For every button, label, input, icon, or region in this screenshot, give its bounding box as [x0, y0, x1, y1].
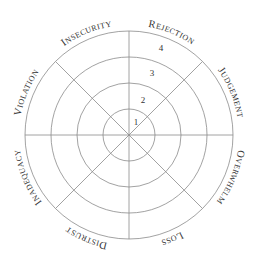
emotion-wheel-diagram: 1234 REJECTIONJUDGEMENTOVERWHELMLOSSDIST… [0, 0, 256, 268]
segment-label-loss: LOSS [159, 230, 185, 250]
segment-label-judgement: JUDGEMENT [215, 64, 247, 120]
spoke-135 [129, 135, 203, 209]
ring-number-2: 2 [141, 95, 146, 105]
ring-number-3: 3 [150, 68, 155, 78]
segment-label-violation: VIOLATION [10, 66, 41, 118]
segment-label-overwhelm: OVERWHELM [214, 147, 249, 207]
spoke-315 [56, 62, 130, 136]
spokes [25, 31, 233, 239]
ring-number-1: 1 [134, 117, 139, 127]
spoke-225 [56, 135, 130, 209]
ring-numbers: 1234 [134, 43, 164, 127]
segment-label-rejection: REJECTION [146, 17, 197, 48]
segment-label-insecurity: INSECURITY [58, 16, 114, 48]
ring-number-4: 4 [159, 43, 164, 53]
segment-label-distrust: DISTRUST [63, 224, 110, 253]
